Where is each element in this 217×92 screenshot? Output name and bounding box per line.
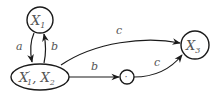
edge-label-a: a — [16, 40, 23, 53]
edge-label-b-right: b — [91, 60, 98, 73]
node-dot-label: · — [125, 71, 128, 82]
edge-x1p-x2-to-x3 — [61, 40, 180, 65]
edge-x1p-x2-to-x1 — [44, 34, 46, 63]
node-dot: · — [120, 70, 134, 84]
edge-x1-to-x1p-x2 — [31, 33, 34, 62]
automaton-diagram: a b c b c X1 X′1, X2 · X3 — [0, 0, 217, 92]
edge-label-c-top: c — [116, 24, 122, 37]
node-x1: X1 — [27, 7, 53, 33]
svg-text:X′1, X2: X′1, X2 — [18, 69, 55, 87]
edge-label-c-bottom: c — [154, 56, 160, 69]
edge-label-b-up: b — [51, 40, 58, 53]
node-x1p-x2: X′1, X2 — [11, 64, 69, 90]
node-x3: X3 — [181, 31, 209, 59]
